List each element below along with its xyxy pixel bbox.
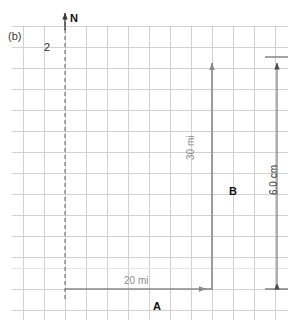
vector-a-label: A xyxy=(153,300,161,312)
vector-b-magnitude-label: 30 mi xyxy=(185,136,196,160)
scale-tick-label: 2 xyxy=(44,41,50,53)
dimension-label: 6.0 cm xyxy=(268,165,279,195)
panel-label: (b) xyxy=(8,30,21,42)
vector-a-magnitude-label: 20 mi xyxy=(124,275,148,286)
vector-diagram-figure: (b) 2 N 20 mi 30 mi A B 6.0 cm xyxy=(0,0,292,335)
vector-b-label: B xyxy=(229,185,237,197)
north-label: N xyxy=(70,12,78,24)
